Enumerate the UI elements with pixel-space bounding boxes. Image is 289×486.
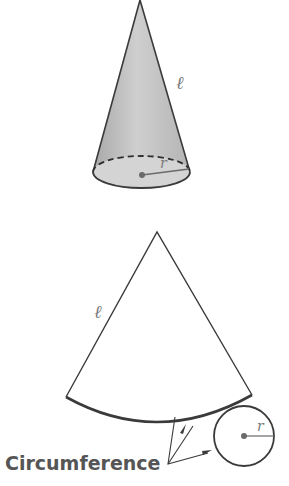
circumference-arrows <box>168 417 212 464</box>
cone-net-sector: ℓ <box>66 232 252 422</box>
cone-center-dot <box>139 172 145 178</box>
circumference-caption: Circumference <box>5 452 161 474</box>
cone-diagram: r ℓ ℓ r Circumference <box>0 0 289 486</box>
arrow-head-up <box>180 424 186 434</box>
cone-3d: r ℓ <box>93 0 190 188</box>
arrow-head-right <box>202 450 212 455</box>
base-center-dot <box>241 433 247 439</box>
arrow-lines <box>168 417 208 464</box>
sector-slant-label: ℓ <box>94 301 102 322</box>
cone-slant-label: ℓ <box>176 72 184 93</box>
cone-net-base-circle: r <box>214 406 274 466</box>
